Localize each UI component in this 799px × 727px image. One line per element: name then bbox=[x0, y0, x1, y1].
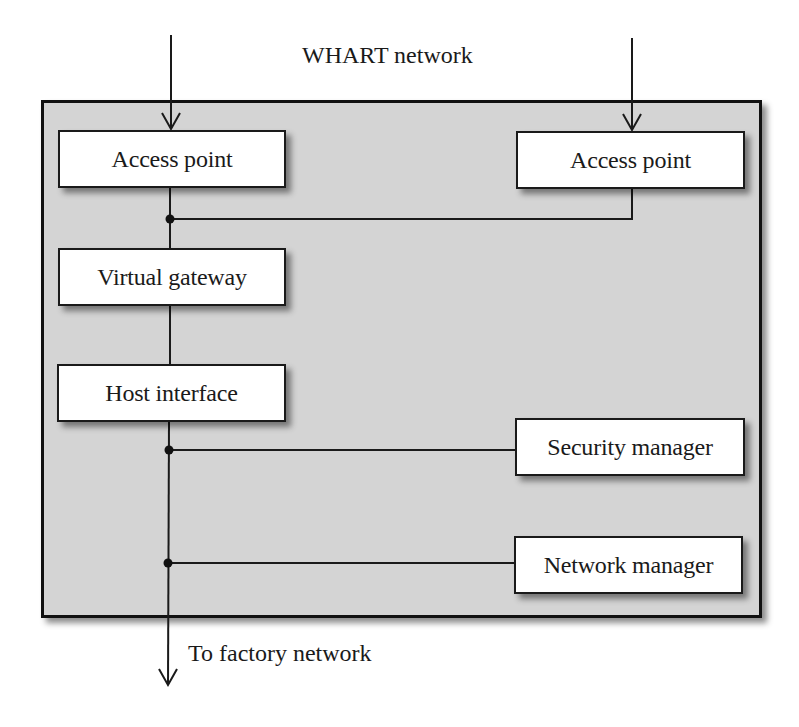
whart-gateway-diagram: WHART network bbox=[0, 0, 799, 727]
node-label: Host interface bbox=[105, 380, 237, 407]
node-label: Network manager bbox=[544, 552, 714, 579]
node-label: Security manager bbox=[547, 434, 712, 461]
network-manager-node: Network manager bbox=[514, 536, 743, 594]
security-manager-node: Security manager bbox=[515, 418, 745, 476]
node-label: Access point bbox=[570, 147, 691, 174]
host-interface-node: Host interface bbox=[57, 364, 286, 422]
access-point-right-node: Access point bbox=[516, 131, 745, 189]
node-label: Virtual gateway bbox=[97, 264, 247, 291]
factory-network-label: To factory network bbox=[188, 640, 372, 667]
arrow-head-exit-icon bbox=[159, 669, 177, 685]
node-label: Access point bbox=[112, 146, 233, 173]
virtual-gateway-node: Virtual gateway bbox=[58, 248, 286, 306]
whart-network-label: WHART network bbox=[302, 42, 473, 69]
access-point-left-node: Access point bbox=[58, 130, 286, 188]
